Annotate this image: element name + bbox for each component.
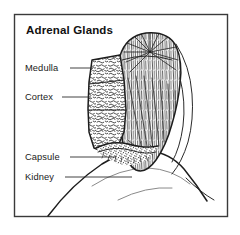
figure-title: Adrenal Glands (26, 24, 113, 36)
anatomy-illustration-canvas: Adrenal Glands Medulla Cortex Capsule Ki… (0, 0, 240, 235)
label-cortex-text: Cortex (25, 92, 53, 102)
adrenal-glands-figure: Adrenal Glands Medulla Cortex Capsule Ki… (0, 0, 240, 235)
label-medulla-text: Medulla (25, 63, 59, 73)
label-capsule-text: Capsule (25, 152, 60, 162)
label-kidney-text: Kidney (25, 172, 54, 182)
